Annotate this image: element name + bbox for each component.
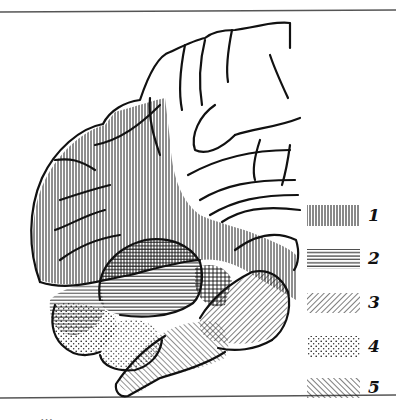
brain-diagram (0, 0, 396, 420)
top-rule (0, 10, 396, 12)
legend-label-4: 4 (368, 338, 380, 355)
legend-swatch-1 (307, 205, 360, 226)
figure-caption-partial: … (40, 404, 380, 420)
legend-label-3: 3 (368, 294, 380, 311)
legend-swatch-2 (307, 249, 360, 269)
legend-label-2: 2 (368, 250, 380, 267)
legend-label-1: 1 (368, 207, 380, 224)
legend-swatch-3 (307, 293, 360, 313)
legend-swatch-4 (307, 336, 360, 358)
legend (307, 205, 360, 398)
legend-label-5: 5 (368, 379, 380, 396)
legend-swatch-5 (307, 378, 360, 398)
